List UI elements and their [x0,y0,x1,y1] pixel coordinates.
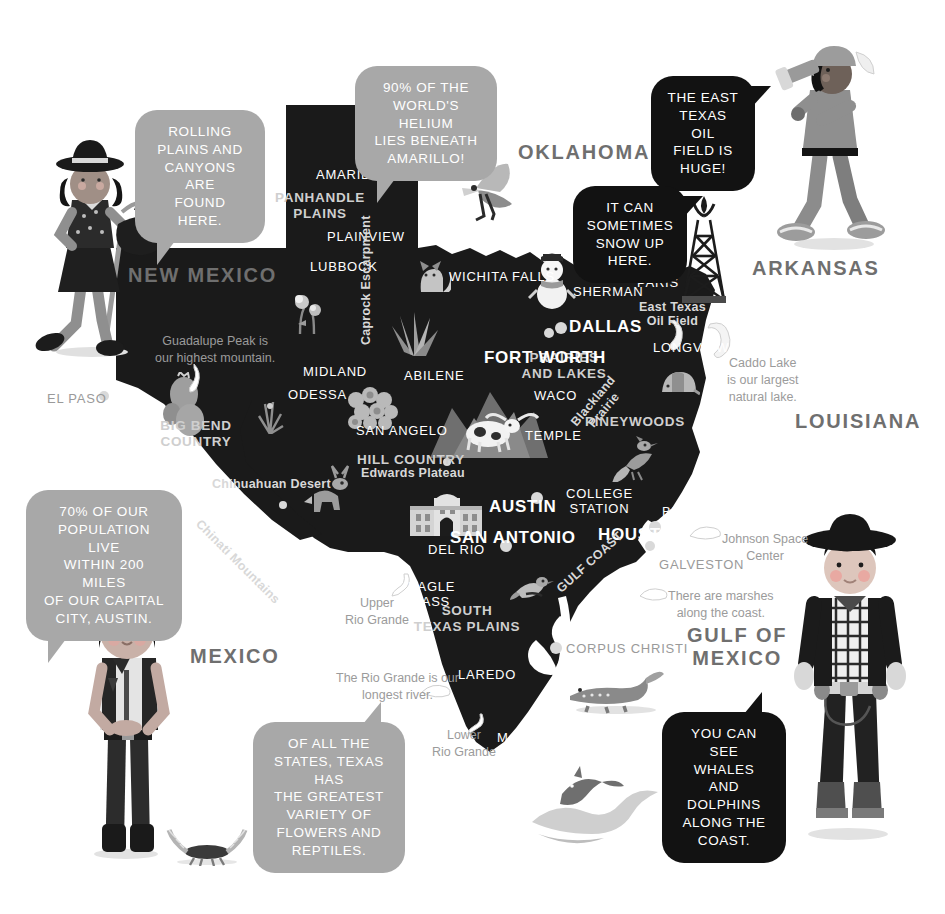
city-label-fort-worth: FORT WORTH [484,348,606,368]
map-note-upper: Upper Rio Grande [345,595,409,629]
longhorn-cattle-illustration [430,382,548,458]
map-note-lower: Lower Rio Grande [432,727,496,761]
johnson-space-center-doodle [688,524,722,544]
sub-label-caprock-escarpment: Caprock Escarpment [359,215,373,345]
map-note-johnson-space: Johnson Space Center [722,531,808,565]
city-label-laredo: LAREDO [458,668,516,683]
sub-label-east-texas-oil-field: East Texas Oil Field [639,300,706,329]
city-label-wichita-falls: WICHITA FALLS [449,270,555,285]
city-label-abilene: ABILENE [404,369,464,384]
city-label-san-angelo: SAN ANGELO [356,424,448,439]
city-label-del-rio: DEL RIO [428,543,485,558]
city-dot [544,328,554,338]
city-label-el-paso: EL PASO [47,392,107,407]
bluebonnet-flowers-illustration [288,290,326,334]
agave-plant-illustration [388,310,440,356]
city-label-sherman: SHERMAN [573,285,643,300]
city-label-austin: AUSTIN [489,497,556,517]
speech-bubble-tail [744,692,762,714]
city-label-eagle-pass: EAGLE PASS [408,580,455,610]
city-dot [279,501,287,509]
state-label-arkansas: ARKANSAS [752,257,880,280]
city-label-beaumont: BEAUMONT [662,505,742,520]
speech-bubble-tail [377,179,395,203]
speech-bubble-rolling-plains: ROLLING PLAINS AND CANYONS ARE FOUND HER… [135,110,265,243]
state-label-oklahoma: OKLAHOMA [518,141,650,164]
city-label-temple: TEMPLE [525,429,582,444]
city-label-corpus-christi: CORPUS CHRISTI [566,642,688,657]
speech-bubble-helium: 90% OF THE WORLD'S HELIUM LIES BENEATH A… [355,66,497,181]
map-note-the-rio-grande-is-our: The Rio Grande is our longest river. [336,670,459,704]
speech-bubble-whales-dolphins: YOU CAN SEE WHALES AND DOLPHINS ALONG TH… [662,712,786,863]
city-label-college-station: COLLEGE STATION [566,487,633,517]
state-label-gulf-of-mexico: GULF OF MEXICO [687,624,787,670]
texas-illustrated-map: PANHANDLE PLAINSPRAIRIES AND LAKESBIG BE… [0,0,945,914]
state-label-new-mexico: NEW MEXICO [128,264,277,287]
state-label-mexico: MEXICO [190,645,280,668]
region-label-panhandle-plains: PANHANDLE PLAINS [275,190,365,221]
speech-bubble-east-texas-oil: THE EAST TEXAS OIL FIELD IS HUGE! [651,76,755,191]
roadrunner-illustration [610,432,658,482]
boy-with-telescope-illustration [762,44,907,254]
region-label-big-bend-country: BIG BEND COUNTRY [160,418,231,449]
yucca-plant-illustration [255,396,285,434]
speech-bubble-tail [48,639,66,663]
marshes-doodle [638,586,668,606]
guadalupe-peak-doodle [180,362,204,394]
city-label-dallas: DALLAS [569,317,642,337]
armadillo-illustration [658,366,700,396]
dolphin-and-wave-illustration [532,760,662,850]
speech-bubble-population: 70% OF OUR POPULATION LIVE WITHIN 200 MI… [26,490,182,641]
sub-label-edwards-plateau: Edwards Plateau [361,466,465,480]
city-label-midland: MIDLAND [303,365,367,380]
map-note-caddo-lake: Caddo Lake is our largest natural lake. [727,355,799,406]
city-label-odessa: ODESSA [288,388,347,403]
speech-bubble-tail [363,702,381,724]
speech-bubble-tail [157,241,175,265]
city-label-mcallen: McALLEN [497,731,561,746]
city-label-waco: WACO [534,389,577,404]
fox-illustration [415,258,451,292]
speech-bubble-tail [751,86,771,108]
mockingbird-illustration [508,566,554,600]
alligator-illustration [566,666,666,714]
map-note-guadalupe-peak-is: Guadalupe Peak is our highest mountain. [155,333,275,367]
speech-bubble-tail [683,196,703,218]
speech-bubble-flowers-reptiles: OF ALL THE STATES, TEXAS HAS THE GREATES… [253,722,405,873]
speech-bubble-snow: IT CAN SOMETIMES SNOW UP HERE. [573,186,687,283]
state-label-louisiana: LOUISIANA [795,410,921,433]
scorpion-illustration [162,826,252,866]
map-note-there-are-marshes: There are marshes along the coast. [668,588,774,622]
city-dot [550,642,562,654]
sub-label-chinati-mountains: Chinati Mountains [193,517,283,607]
city-label-longview: LONGVIEW [653,341,729,356]
city-dot [555,322,567,334]
sub-label-chihuahuan-desert: Chihuahuan Desert [212,477,331,491]
